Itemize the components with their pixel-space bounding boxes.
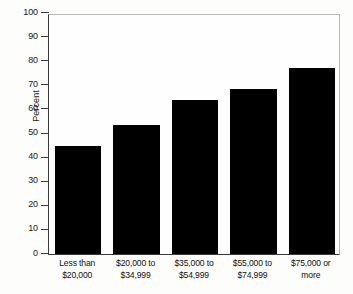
y-tick-label-90: 90 (28, 31, 38, 41)
y-tick-80: 80 (41, 60, 49, 61)
bar-5 (289, 68, 335, 254)
y-tick-0: 0 (41, 253, 49, 254)
y-tick-label-0: 0 (33, 248, 38, 258)
x-axis-label-4-line-1: $55,000 to (223, 258, 281, 270)
x-axis-labels: Less than$20,000$20,000 to$34,999$35,000… (48, 258, 340, 292)
y-tick-60: 60 (41, 108, 49, 109)
y-tick-label-40: 40 (28, 151, 38, 161)
y-tick-90: 90 (41, 36, 49, 37)
x-axis-label-1: Less than$20,000 (48, 258, 106, 281)
y-tick-20: 20 (41, 205, 49, 206)
x-axis-label-1-line-2: $20,000 (48, 270, 106, 282)
x-axis-label-4-line-2: $74,999 (223, 270, 281, 282)
y-tick-label-70: 70 (28, 79, 38, 89)
y-tick-70: 70 (41, 84, 49, 85)
y-tick-label-10: 10 (28, 223, 38, 233)
x-axis-label-3-line-2: $54,999 (165, 270, 223, 282)
y-tick-30: 30 (41, 181, 49, 182)
bar-4 (230, 89, 276, 254)
x-axis-label-5: $75,000 ormore (282, 258, 340, 281)
bar-3 (172, 100, 218, 254)
y-tick-100: 100 (41, 12, 49, 13)
plot-area: 1009080706050403020100 (48, 14, 340, 255)
y-tick-label-50: 50 (28, 127, 38, 137)
bar-2 (113, 125, 159, 254)
y-tick-label-100: 100 (23, 7, 38, 17)
y-tick-50: 50 (41, 133, 49, 134)
y-tick-10: 10 (41, 229, 49, 230)
x-axis-label-4: $55,000 to$74,999 (223, 258, 281, 281)
x-axis-label-5-line-1: $75,000 or (282, 258, 340, 270)
bar-1 (55, 146, 101, 254)
x-axis-label-3-line-1: $35,000 to (165, 258, 223, 270)
x-axis-label-1-line-1: Less than (48, 258, 106, 270)
y-tick-label-20: 20 (28, 199, 38, 209)
x-axis-label-5-line-2: more (282, 270, 340, 282)
y-tick-40: 40 (41, 157, 49, 158)
x-axis-label-2-line-1: $20,000 to (106, 258, 164, 270)
x-axis-label-2-line-2: $34,999 (106, 270, 164, 282)
y-tick-label-80: 80 (28, 55, 38, 65)
bar-chart-figure: Percent 1009080706050403020100 Less than… (0, 0, 353, 294)
y-tick-label-30: 30 (28, 175, 38, 185)
x-axis-label-2: $20,000 to$34,999 (106, 258, 164, 281)
y-tick-label-60: 60 (28, 103, 38, 113)
x-axis-label-3: $35,000 to$54,999 (165, 258, 223, 281)
